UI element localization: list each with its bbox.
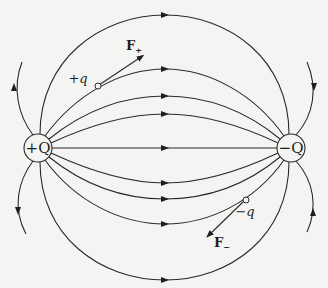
field-line-left-up bbox=[17, 62, 33, 135]
arrow-icon bbox=[161, 145, 169, 151]
field-line-right-down bbox=[296, 62, 313, 135]
arrow-down-icon bbox=[311, 83, 317, 91]
arrow-up-icon bbox=[310, 208, 316, 216]
arrow-icon bbox=[161, 277, 169, 283]
negative-charge-label: −Q bbox=[279, 139, 304, 157]
force-negative-label: F− bbox=[214, 235, 230, 252]
field-diagram: +Q −Q +q F+ −q F− bbox=[0, 0, 328, 288]
test-charge-negative-label: −q bbox=[235, 204, 254, 219]
arrow-icon bbox=[161, 66, 169, 72]
force-positive-label: F+ bbox=[126, 38, 142, 55]
negative-charge: −Q bbox=[277, 134, 305, 162]
positive-charge: +Q bbox=[24, 134, 52, 162]
field-line-top-2 bbox=[49, 96, 280, 139]
arrow-icon bbox=[161, 196, 169, 202]
arrow-icon bbox=[161, 221, 169, 227]
field-line-right-up bbox=[296, 161, 313, 232]
field-line-left-down bbox=[18, 161, 33, 234]
test-charge-positive-label: +q bbox=[68, 71, 87, 86]
arrow-icon bbox=[161, 12, 169, 18]
arrow-down-icon bbox=[15, 207, 21, 215]
arrow-icon bbox=[161, 93, 169, 99]
test-charge-negative: −q F− bbox=[209, 197, 255, 252]
field-line-bottom-outer bbox=[40, 162, 289, 280]
positive-charge-label: +Q bbox=[26, 139, 51, 157]
field-line-bottom-2 bbox=[49, 157, 280, 199]
field-line-top-1 bbox=[51, 114, 278, 143]
arrow-icon bbox=[161, 180, 169, 186]
field-line-bottom-1 bbox=[51, 153, 278, 183]
arrow-icon bbox=[161, 111, 169, 117]
arrow-up-icon bbox=[11, 83, 17, 91]
